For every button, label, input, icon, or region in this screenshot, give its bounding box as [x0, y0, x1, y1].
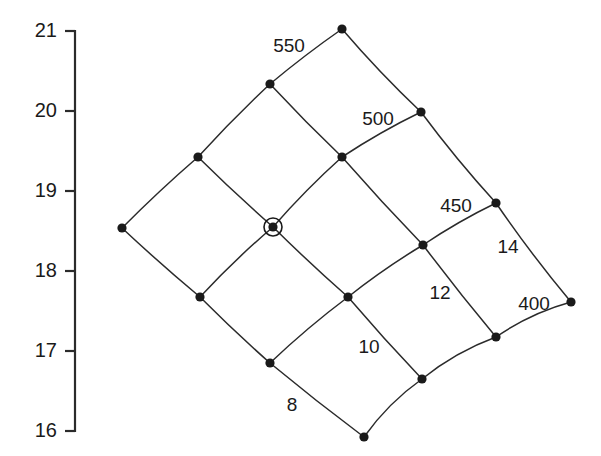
grid-edge-col: [421, 112, 496, 203]
curve-label-12: 12: [429, 282, 450, 303]
grid-diagram-svg: 212019181716 5505004504001412108: [0, 0, 601, 456]
grid-edge-row: [198, 84, 270, 157]
curve-label-500: 500: [362, 108, 394, 129]
grid-node: [337, 24, 346, 33]
grid-node: [337, 152, 346, 161]
grid-edge-col: [270, 363, 364, 437]
grid-node: [417, 374, 426, 383]
grid-edge-col: [342, 157, 423, 245]
grid-edge-col: [200, 297, 270, 363]
grid-node: [268, 222, 277, 231]
grid-edges: [122, 29, 571, 437]
axis-tick-label-20: 20: [35, 99, 57, 121]
grid-node: [359, 432, 368, 441]
grid-edge-col: [122, 228, 200, 297]
grid-edge-row: [122, 157, 198, 228]
axis-tick-label-16: 16: [35, 419, 57, 441]
y-axis: 212019181716: [35, 19, 75, 441]
grid-node: [265, 358, 274, 367]
grid-nodes: [117, 24, 575, 441]
grid-node: [416, 107, 425, 116]
grid-node: [193, 152, 202, 161]
curve-label-10: 10: [358, 336, 379, 357]
grid-node: [418, 240, 427, 249]
figure-canvas: 212019181716 5505004504001412108: [0, 0, 601, 456]
grid-node: [343, 292, 352, 301]
grid-edge-row: [270, 297, 348, 363]
curve-label-550: 550: [273, 35, 305, 56]
grid-edge-col: [270, 84, 342, 157]
grid-edge-row: [364, 379, 422, 437]
grid-node: [117, 223, 126, 232]
axis-tick-label-19: 19: [35, 179, 57, 201]
grid-node: [566, 297, 575, 306]
curve-labels: 5505004504001412108: [273, 35, 550, 415]
grid-edge-row: [200, 227, 273, 297]
axis-tick-label-18: 18: [35, 259, 57, 281]
grid-edge-col: [342, 29, 421, 112]
curve-label-450: 450: [440, 195, 472, 216]
axis-tick-label-17: 17: [35, 339, 57, 361]
axis-tick-label-21: 21: [35, 19, 57, 41]
grid-edge-row: [422, 337, 496, 379]
grid-node: [195, 292, 204, 301]
curve-label-8: 8: [287, 394, 298, 415]
grid-edge-row: [348, 245, 423, 297]
curve-label-400: 400: [518, 293, 550, 314]
grid-edge-col: [273, 227, 348, 297]
grid-edge-col: [198, 157, 273, 227]
grid-edge-row: [273, 157, 342, 227]
grid-node: [265, 79, 274, 88]
grid-node: [491, 198, 500, 207]
curve-label-14: 14: [497, 236, 519, 257]
grid-node: [491, 332, 500, 341]
